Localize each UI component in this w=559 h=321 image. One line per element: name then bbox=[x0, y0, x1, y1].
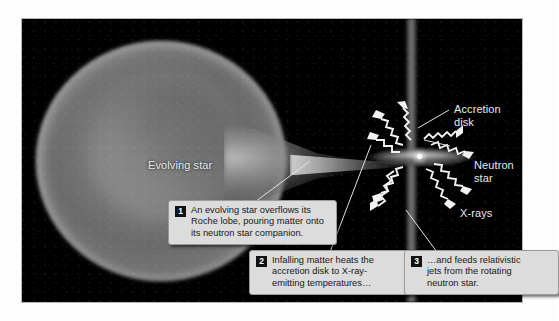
callout-badge-2: 2 bbox=[256, 256, 267, 267]
callout-badge-1: 1 bbox=[175, 206, 186, 217]
xray-arrowhead bbox=[460, 186, 472, 195]
callout-text-1: An evolving star overflows its Roche lob… bbox=[191, 205, 324, 239]
accretion-disk-graphic bbox=[362, 146, 480, 168]
label-neutron-star: Neutron star bbox=[474, 159, 522, 185]
callout-text-2: Infalling matter heats the accretion dis… bbox=[272, 255, 374, 289]
callout-text-3: …and feeds relativistic jets from the ro… bbox=[427, 255, 521, 289]
callout-box-1: 1 An evolving star overflows its Roche l… bbox=[168, 200, 337, 245]
xray-arrowhead bbox=[367, 132, 379, 140]
label-evolving-star: Evolving star bbox=[148, 159, 212, 172]
xray-arrowhead bbox=[370, 199, 378, 211]
callout-badge-3: 3 bbox=[411, 256, 422, 267]
xray-arrowhead bbox=[444, 199, 456, 209]
callout-box-2: 2 Infalling matter heats the accretion d… bbox=[249, 250, 409, 295]
label-xrays: X-rays bbox=[460, 207, 492, 220]
xray-arrowhead bbox=[372, 193, 383, 203]
label-accretion-disk: Accretion disk bbox=[454, 103, 501, 129]
xray-arrowhead bbox=[372, 110, 385, 119]
callout-box-3: 3 …and feeds relativistic jets from the … bbox=[404, 250, 559, 295]
